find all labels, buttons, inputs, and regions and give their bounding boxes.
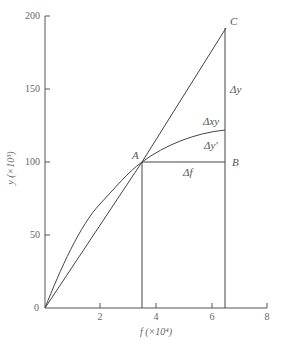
delta-xy-label: Δxy — [202, 115, 219, 127]
y-tick-label: 150 — [25, 83, 40, 94]
y-tick-label: 200 — [25, 10, 40, 21]
x-tick-label: 2 — [98, 311, 103, 322]
secant-line — [45, 28, 226, 308]
chart: 200 150 100 50 0 2 4 6 8 f (×10⁴) y (×10… — [0, 0, 282, 345]
point-b-label: B — [232, 156, 239, 168]
x-tick-label: 4 — [154, 311, 159, 322]
point-c-label: C — [230, 15, 238, 27]
x-tick-label: 6 — [210, 311, 215, 322]
delta-f-label: Δf — [182, 166, 194, 178]
y-tick-label: 0 — [34, 302, 39, 313]
y-tick-label: 100 — [25, 156, 40, 167]
x-tick-label: 8 — [265, 311, 270, 322]
y-tick-label: 50 — [30, 229, 40, 240]
point-a-label: A — [131, 149, 139, 161]
x-axis-label: f (×10⁴) — [140, 326, 173, 338]
y-axis-label: y (×10³) — [5, 151, 17, 186]
delta-y-prime-label: Δy' — [203, 139, 218, 151]
delta-y-label: Δy — [229, 83, 241, 95]
